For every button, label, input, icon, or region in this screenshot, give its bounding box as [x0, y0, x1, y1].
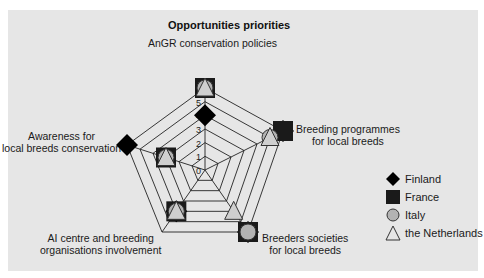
diamond-marker: [116, 134, 138, 156]
diamond-icon: [385, 171, 401, 187]
legend-item-italy: Italy: [385, 206, 483, 224]
legend-item-netherlands: the Netherlands: [385, 224, 483, 242]
circle-marker: [240, 224, 256, 240]
tick-label: 3: [196, 125, 201, 135]
tick-label: 1: [196, 152, 201, 162]
legend-label: the Netherlands: [405, 227, 483, 239]
legend-label: Finland: [405, 173, 441, 185]
legend-label: Italy: [405, 209, 425, 221]
tick-label: 2: [196, 139, 201, 149]
tick-label: 0: [196, 166, 201, 176]
legend-label: France: [405, 191, 439, 203]
circle-icon: [385, 207, 401, 223]
legend: Finland France Italy the Netherlands: [385, 170, 483, 242]
triangle-marker: [225, 201, 243, 219]
legend-item-france: France: [385, 188, 483, 206]
square-icon: [385, 189, 401, 205]
tick-label: 5: [196, 98, 201, 108]
legend-item-finland: Finland: [385, 170, 483, 188]
triangle-icon: [385, 225, 401, 241]
